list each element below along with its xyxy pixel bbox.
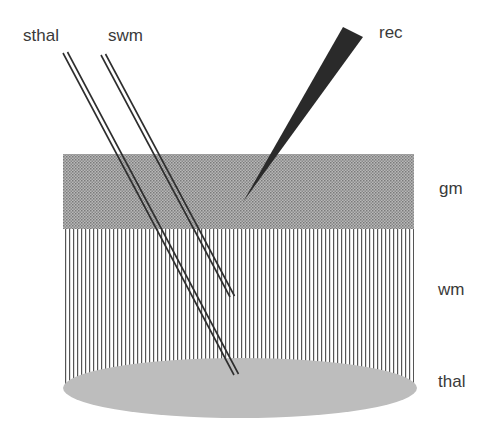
thal-label: thal (438, 373, 465, 390)
gm-label: gm (439, 180, 463, 197)
gray-matter-layer (63, 154, 414, 229)
swm-label: swm (108, 27, 143, 44)
rec-label: rec (379, 24, 403, 41)
wm-label: wm (438, 281, 464, 298)
sthal-label: sthal (23, 27, 59, 44)
thalamus-ellipse (63, 358, 417, 418)
diagram-canvas (0, 0, 491, 430)
